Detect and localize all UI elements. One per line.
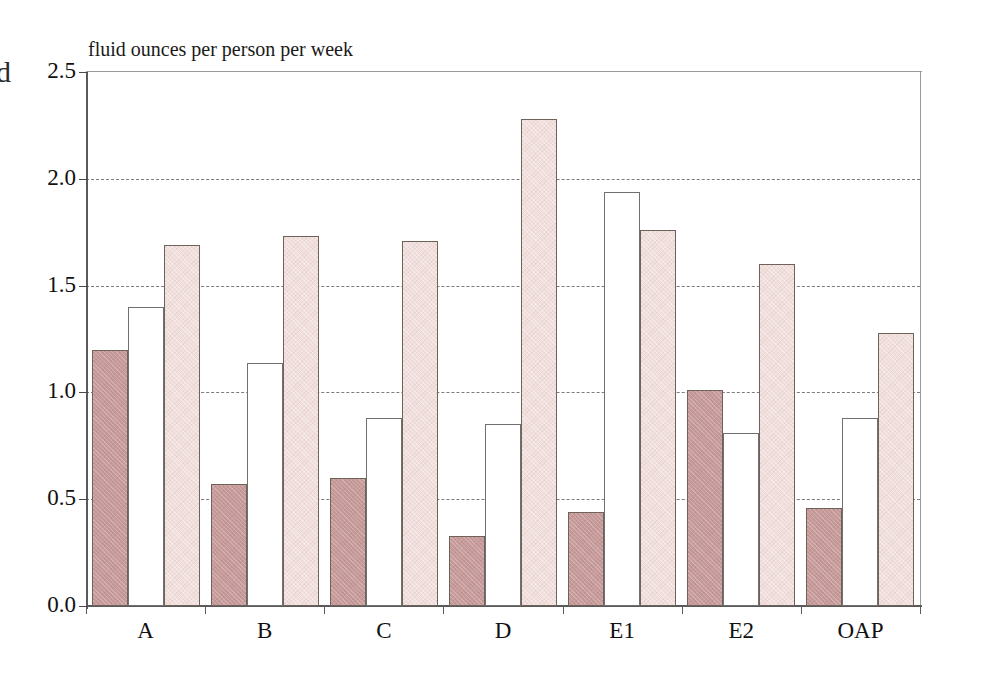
- y-axis-tick-label: 2.0: [20, 165, 76, 191]
- bar-chart-figure: d fluid ounces per person per week 0.00.…: [0, 0, 986, 685]
- x-axis-tick: [86, 607, 87, 614]
- bar-e1-series1: [568, 512, 604, 606]
- bar-oap-series3: [878, 333, 914, 606]
- bar-e1-series3: [640, 230, 676, 606]
- x-axis-label-e2: E2: [729, 618, 755, 644]
- x-axis-tick: [682, 607, 683, 614]
- bar-e2-series2: [723, 433, 759, 606]
- y-axis-tick-label: 2.5: [20, 58, 76, 84]
- bar-d-series1: [449, 536, 485, 606]
- x-axis-label-c: C: [376, 618, 391, 644]
- bar-oap-series1: [806, 508, 842, 606]
- bar-c-series1: [330, 478, 366, 606]
- x-axis-tick: [324, 607, 325, 614]
- bar-c-series2: [366, 418, 402, 606]
- bars-plot-area: [86, 72, 920, 606]
- x-axis-label-a: A: [137, 618, 154, 644]
- x-axis-tick: [920, 607, 921, 614]
- x-axis-label-e1: E1: [609, 618, 635, 644]
- bar-e1-series2: [604, 192, 640, 606]
- bar-d-series2: [485, 424, 521, 606]
- x-axis-tick: [801, 607, 802, 614]
- y-axis-tick-label: 0.0: [20, 592, 76, 618]
- bar-a-series1: [92, 350, 128, 606]
- y-axis-tick-label: 0.5: [20, 485, 76, 511]
- x-axis-label-oap: OAP: [837, 618, 883, 644]
- bar-e2-series3: [759, 264, 795, 606]
- y-axis-tick-label: 1.5: [20, 272, 76, 298]
- page-edge-glyph: d: [0, 55, 10, 89]
- bar-c-series3: [402, 241, 438, 606]
- bar-a-series2: [128, 307, 164, 606]
- bar-e2-series1: [687, 390, 723, 606]
- bar-b-series2: [247, 363, 283, 607]
- bar-b-series1: [211, 484, 247, 606]
- y-axis-tick-label: 1.0: [20, 378, 76, 404]
- x-axis-tick: [205, 607, 206, 614]
- x-axis-tick: [443, 607, 444, 614]
- x-axis-label-b: B: [257, 618, 272, 644]
- plot-right-border: [920, 72, 921, 607]
- x-axis-label-d: D: [495, 618, 512, 644]
- y-axis-title: fluid ounces per person per week: [88, 38, 353, 61]
- bar-d-series3: [521, 119, 557, 606]
- x-axis-tick: [563, 607, 564, 614]
- bar-oap-series2: [842, 418, 878, 606]
- bar-a-series3: [164, 245, 200, 606]
- bar-b-series3: [283, 236, 319, 606]
